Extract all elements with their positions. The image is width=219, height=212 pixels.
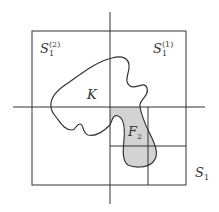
label-base: S [153, 41, 162, 56]
label-s1: S1 [195, 166, 209, 179]
label-base: S [40, 41, 49, 56]
label-sub: 1 [49, 49, 54, 58]
label-sup: (2) [49, 40, 60, 49]
label-base: F [128, 124, 137, 139]
label-f2: F2 [128, 125, 142, 138]
label-sub: 2 [137, 132, 142, 141]
label-base: K [87, 87, 97, 102]
label-base: S [195, 165, 204, 180]
label-s1-sup2: S1(2) [40, 42, 65, 55]
label-s1-sup1: S1(1) [153, 42, 178, 55]
diagram-canvas: S1(2) S1(1) K F2 S1 [0, 0, 219, 212]
label-sub: 1 [204, 173, 209, 182]
label-k: K [87, 88, 97, 101]
label-sup: (1) [162, 40, 173, 49]
diagram-svg [0, 0, 219, 212]
label-sub: 1 [162, 49, 167, 58]
